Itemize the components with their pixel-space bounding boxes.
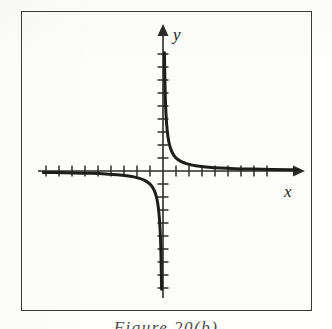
hyperbola-branch-upper-right <box>164 53 298 170</box>
figure-page: y x Figure 20(b) <box>0 0 332 329</box>
y-axis-label: y <box>173 26 181 43</box>
y-axis-arrowhead <box>158 24 169 36</box>
hyperbola-plot <box>0 0 332 329</box>
figure-caption: Figure 20(b) <box>0 318 332 329</box>
x-axis-label: x <box>284 183 292 200</box>
hyperbola-branch-lower-left <box>43 172 161 289</box>
